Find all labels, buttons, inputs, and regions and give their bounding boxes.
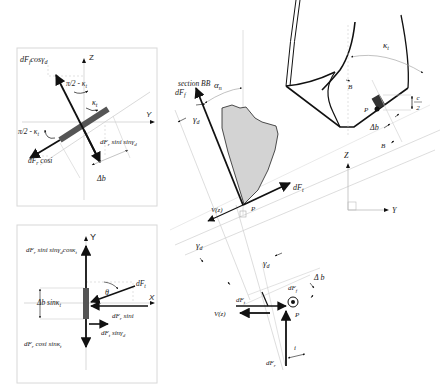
lip-edge	[322, 22, 355, 90]
label-c: c	[416, 94, 420, 102]
section-bb-view: section BB αn dFf γd dFt V(z) P γd	[170, 30, 440, 370]
label-dFt-sin: dFt sinγd	[101, 329, 126, 338]
cutting-edge-element	[83, 288, 89, 319]
right-angle-marker	[348, 202, 356, 210]
label-dFr-sini: dFr sini	[112, 312, 134, 321]
margin-line	[401, 15, 408, 88]
section-title: section BB	[178, 79, 211, 88]
axis-y-label: Y	[146, 110, 152, 119]
label-alpha-n: αn	[214, 80, 222, 91]
label-bottom-component: dFr cosi sinκt	[24, 340, 62, 349]
label-top-component: dFr sini sinγdcosκt	[26, 246, 77, 255]
db-dim	[310, 283, 314, 288]
label-c-den: 2	[416, 104, 420, 112]
reference-line	[248, 268, 320, 295]
B-arrow	[346, 80, 350, 81]
label-i: i	[294, 344, 296, 352]
reference-line	[262, 263, 285, 365]
label-delta-b: Δb	[369, 123, 379, 132]
axis-y-label: Y	[90, 232, 96, 242]
axis-z-label: Z	[344, 151, 349, 160]
gamma-dim	[275, 253, 282, 256]
label-B-bottom: B	[381, 142, 386, 150]
label-dFr-sini: dFr sini sinγd	[100, 138, 137, 147]
top-left-panel: Z Y dFfcosγd π/2 - κt κt π/2 - κt dFr co…	[17, 48, 157, 206]
label-P: P	[363, 106, 369, 114]
B-arrow	[391, 141, 394, 143]
flute-line	[290, 0, 300, 86]
axis-z-label: Z	[89, 53, 94, 62]
label-B-top: B	[348, 83, 353, 91]
db-dim	[384, 124, 390, 128]
point-p	[375, 107, 380, 112]
edge-direction-line	[170, 105, 430, 230]
label-dFr: dFr	[266, 359, 276, 368]
db-dim	[311, 295, 313, 298]
axis-x-label: X	[148, 293, 155, 302]
label-dFf: dFf	[175, 88, 187, 98]
label-gamma-d: γd	[193, 114, 201, 125]
label-delta-b: Δ b	[313, 273, 325, 282]
alpha-arc	[205, 88, 242, 103]
edge-direction-line	[185, 150, 435, 255]
z-axis-arrow-icon	[346, 163, 350, 168]
label-pi2-kt-top: π/2 - κt	[66, 79, 87, 89]
drill-tip-view: κt B P c 2 Δb B Z Y	[286, 0, 423, 215]
bottom-left-panel: Y X dFr sini sinγdcosκt dFt θ Δb sinκt d…	[17, 225, 157, 383]
label-kappa-t: κt	[383, 40, 389, 51]
gamma-dim	[228, 282, 230, 285]
label-p: P	[250, 205, 256, 213]
cutting-edge	[286, 86, 408, 127]
label-vz: V(z)	[214, 310, 226, 318]
reference-line	[243, 275, 310, 305]
kappa-arc	[351, 55, 423, 73]
bottom-center-view: γd Δ b dFf dFt V(z) P i dFr	[214, 253, 325, 368]
label-gamma-d-lower: γd	[196, 240, 204, 251]
label-dFr-cosi: dFr cosi	[28, 156, 52, 166]
label-vz: V(z)	[211, 206, 223, 214]
diagram-canvas: Z Y dFfcosγd π/2 - κt κt π/2 - κt dFr co…	[0, 0, 444, 390]
db-dim	[395, 114, 399, 117]
label-pi2-kt-left: π/2 - κt	[18, 127, 39, 137]
label-theta: θ	[105, 288, 109, 297]
label-dFf: dFf	[288, 284, 298, 293]
label-dFt: dFt	[293, 183, 304, 193]
gamma-dim	[200, 258, 203, 262]
label-delta-b-sin: Δb sinκt	[36, 298, 61, 308]
i-dimension	[288, 354, 305, 358]
label-gamma-d: γd	[263, 258, 271, 269]
panel-border	[17, 48, 157, 206]
axis-y-label: Y	[392, 206, 398, 215]
label-p: P	[294, 311, 300, 319]
label-dFt: dFt	[236, 296, 246, 305]
dFf-dot	[291, 300, 295, 304]
chip-section	[222, 105, 278, 204]
label-delta-b: Δb	[96, 174, 106, 183]
rake-reference-line	[236, 205, 283, 370]
edge-direction-line	[175, 130, 440, 245]
label-dFf-cos: dFfcosγd	[20, 55, 48, 65]
y-axis-arrow-icon	[384, 208, 389, 212]
